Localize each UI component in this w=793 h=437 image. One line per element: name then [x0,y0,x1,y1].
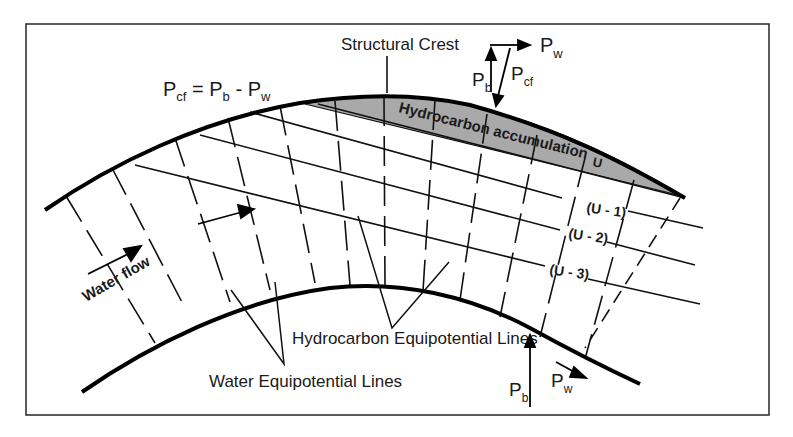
water-equipotential-leader-lines [231,282,284,364]
structural-crest-label: Structural Crest [341,35,459,54]
pb-vector-label-top: Pb [472,69,492,95]
hydrodynamic-trap-diagram: Structural Crest Pcf = Pb - Pw Hydrocarb… [0,0,793,437]
water-equipotential-line-outer [585,198,680,348]
water-flow-arrow-upper [198,205,254,224]
u-minus-1-label: (U - 1) [586,199,628,220]
pb-vector-label-bottom: Pb [509,379,529,405]
pcf-vector-label-top: Pcf [511,63,534,89]
pw-vector-label-top: Pw [540,34,563,61]
pw-vector-label-bottom: Pw [551,370,573,396]
capillary-force-equation: Pcf = Pb - Pw [163,78,271,104]
hydrocarbon-equipotential-leader-lines [358,216,449,328]
u-minus-2-label: (U - 2) [568,225,610,246]
hydrocarbon-equipotential-lines-label: Hydrocarbon Equipotential Lines [292,329,538,348]
water-equipotential-lines-label: Water Equipotential Lines [209,372,402,391]
